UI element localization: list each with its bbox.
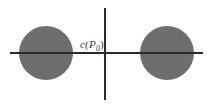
origin-label-closing-paren: ) — [100, 38, 104, 50]
horizontal-axis — [10, 52, 203, 54]
origin-label: c(P0) — [80, 38, 104, 55]
origin-label-function: c(P — [80, 38, 96, 50]
vertical-axis — [104, 8, 106, 100]
math-figure: c(P0) — [0, 0, 211, 108]
